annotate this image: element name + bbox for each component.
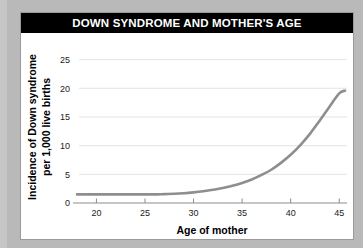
- chart-card: DOWN SYNDROME AND MOTHER'S AGE 051015202…: [20, 12, 354, 240]
- y-tick-label: 10: [60, 141, 70, 151]
- chart-title: DOWN SYNDROME AND MOTHER'S AGE: [72, 17, 301, 29]
- y-tick-label: 25: [60, 55, 70, 65]
- y-tick-label: 5: [65, 170, 70, 180]
- y-axis-title-line-2: per 1,000 live births: [40, 78, 52, 176]
- x-tick-labels-group: 202530354045: [91, 208, 344, 218]
- y-tick-label: 0: [65, 198, 70, 208]
- x-tick-marks-group: [96, 199, 339, 204]
- plot-region: 0510152025 202530354045 Incidence of Dow…: [21, 33, 353, 239]
- grid-lines-group: [79, 60, 347, 175]
- x-tick-label: 40: [286, 208, 296, 218]
- x-tick-label: 35: [237, 208, 247, 218]
- figure-root: DOWN SYNDROME AND MOTHER'S AGE 051015202…: [0, 0, 363, 248]
- y-tick-label: 20: [60, 84, 70, 94]
- x-axis-title: Age of mother: [176, 224, 247, 236]
- x-tick-label: 45: [334, 208, 344, 218]
- x-tick-label: 30: [189, 208, 199, 218]
- y-axis-title-group: Incidence of Down syndromeper 1,000 live…: [26, 54, 52, 200]
- chart-svg: 0510152025 202530354045 Incidence of Dow…: [21, 33, 353, 239]
- y-axis-title-line-1: Incidence of Down syndrome: [26, 54, 38, 200]
- backdrop-band: [0, 0, 7, 248]
- x-tick-label: 20: [91, 208, 101, 218]
- x-tick-label: 25: [140, 208, 150, 218]
- chart-title-bar: DOWN SYNDROME AND MOTHER'S AGE: [21, 13, 353, 33]
- incidence-curve: [77, 91, 345, 195]
- y-tick-labels-group: 0510152025: [60, 55, 70, 208]
- y-tick-label: 15: [60, 112, 70, 122]
